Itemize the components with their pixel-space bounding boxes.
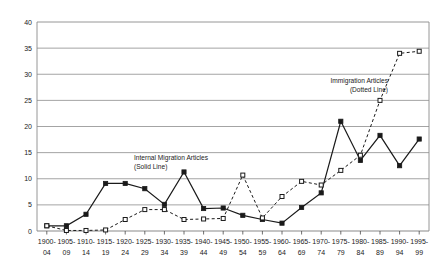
x-axis-tick-label: 29	[141, 249, 149, 256]
y-axis-tick-label: 25	[24, 97, 32, 104]
data-point-marker	[104, 228, 108, 232]
x-axis-tick-label: 59	[259, 249, 267, 256]
data-point-marker	[84, 228, 88, 232]
data-point-marker	[280, 221, 284, 225]
x-axis-tick-label: 1940-	[195, 238, 214, 245]
legend-annotation-internal-migration-style: (Solid Line)	[134, 163, 167, 171]
x-axis-tick-label: 1930-	[155, 238, 174, 245]
series-line-1	[47, 121, 419, 226]
x-axis-tick-label: 44	[200, 249, 208, 256]
x-axis-tick-label: 89	[376, 249, 384, 256]
data-point-marker	[358, 158, 362, 162]
x-axis-tick-label: 1900-	[38, 238, 57, 245]
x-axis-tick-label: 1915-	[97, 238, 116, 245]
data-point-marker	[260, 216, 264, 220]
y-axis-tick-label: 10	[24, 175, 32, 182]
x-axis-tick-label: 1960-	[273, 238, 292, 245]
data-point-marker	[143, 187, 147, 191]
y-axis-tick-label: 40	[24, 19, 32, 26]
chart-container: 05101520253035401900-041905-091910-14191…	[0, 0, 438, 267]
x-axis-tick-label: 1985-	[371, 238, 390, 245]
x-axis-tick-label: 99	[415, 249, 423, 256]
data-point-marker	[417, 49, 421, 53]
y-axis-tick-label: 5	[28, 201, 32, 208]
x-axis-tick-label: 1980-	[351, 238, 370, 245]
data-point-marker	[84, 212, 88, 216]
data-point-marker	[241, 213, 245, 217]
data-point-marker	[339, 168, 343, 172]
data-point-marker	[339, 119, 343, 123]
x-axis-tick-label: 09	[63, 249, 71, 256]
data-point-marker	[143, 208, 147, 212]
data-point-marker	[162, 202, 166, 206]
data-point-marker	[64, 224, 68, 228]
data-point-marker	[123, 218, 127, 222]
y-axis-tick-label: 30	[24, 71, 32, 78]
x-axis-tick-label: 1945-	[214, 238, 233, 245]
x-axis-tick-label: 84	[357, 249, 365, 256]
x-axis-tick-label: 14	[82, 249, 90, 256]
y-axis-tick-label: 15	[24, 149, 32, 156]
y-axis-tick-label: 20	[24, 123, 32, 130]
x-axis-tick-label: 1990-	[391, 238, 410, 245]
x-axis-tick-label: 79	[337, 249, 345, 256]
data-point-marker	[300, 179, 304, 183]
x-axis-tick-label: 1955-	[253, 238, 272, 245]
x-axis-tick-label: 1965-	[293, 238, 312, 245]
data-point-marker	[358, 153, 362, 157]
x-axis-tick-label: 74	[317, 249, 325, 256]
data-point-marker	[398, 164, 402, 168]
data-point-marker	[123, 181, 127, 185]
line-chart: 05101520253035401900-041905-091910-14191…	[0, 0, 438, 267]
y-axis-tick-label: 0	[28, 228, 32, 235]
x-axis-tick-label: 1920-	[116, 238, 135, 245]
data-point-marker	[319, 183, 323, 187]
x-axis-tick-label: 1910-	[77, 238, 96, 245]
x-axis-tick-label: 69	[298, 249, 306, 256]
data-point-marker	[300, 205, 304, 209]
data-point-marker	[280, 195, 284, 199]
x-axis-tick-label: 24	[121, 249, 129, 256]
x-axis-tick-label: 64	[278, 249, 286, 256]
data-point-marker	[202, 206, 206, 210]
data-point-marker	[378, 98, 382, 102]
x-axis-tick-label: 94	[396, 249, 404, 256]
data-point-marker	[378, 133, 382, 137]
data-point-marker	[241, 173, 245, 177]
legend-annotation-immigration-style: (Dotted Line)	[350, 86, 388, 94]
data-point-marker	[417, 137, 421, 141]
x-axis-tick-label: 1905-	[57, 238, 76, 245]
x-axis-tick-label: 1995-	[410, 238, 429, 245]
x-axis-tick-label: 39	[180, 249, 188, 256]
data-point-marker	[202, 217, 206, 221]
x-axis-tick-label: 1935-	[175, 238, 194, 245]
data-point-marker	[162, 208, 166, 212]
x-axis-tick-label: 49	[219, 249, 227, 256]
x-axis-tick-label: 1950-	[234, 238, 253, 245]
data-point-marker	[221, 206, 225, 210]
legend-annotation-internal-migration: Internal Migration Articles	[134, 154, 209, 162]
x-axis-tick-label: 1970-	[312, 238, 331, 245]
x-axis-tick-label: 54	[239, 249, 247, 256]
x-axis-tick-label: 19	[102, 249, 110, 256]
data-point-marker	[182, 218, 186, 222]
legend-annotation-immigration: Immigration Articles	[330, 77, 388, 85]
x-axis-tick-label: 04	[43, 249, 51, 256]
data-point-marker	[221, 216, 225, 220]
data-point-marker	[319, 191, 323, 195]
x-axis-tick-label: 34	[161, 249, 169, 256]
y-axis-tick-label: 35	[24, 45, 32, 52]
x-axis-tick-label: 1925-	[136, 238, 155, 245]
x-axis-tick-label: 1975-	[332, 238, 351, 245]
data-point-marker	[398, 51, 402, 55]
data-point-marker	[64, 228, 68, 232]
data-point-marker	[104, 181, 108, 185]
data-point-marker	[182, 170, 186, 174]
data-point-marker	[45, 224, 49, 228]
